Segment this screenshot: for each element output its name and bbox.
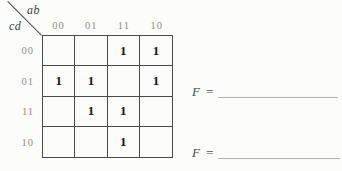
kmap-row-header-11: 11: [8, 97, 34, 128]
kmap-cell-r2c0: [43, 97, 75, 127]
kmap-cell-r3c2: 1: [108, 127, 140, 157]
kmap-row-header-01: 01: [8, 66, 34, 97]
kmap-col-header-11: 11: [108, 19, 141, 32]
kmap-cell-r2c1: 1: [75, 97, 107, 127]
row-variable-label: cd: [9, 20, 21, 32]
kmap-cell-r1c1: 1: [75, 66, 107, 96]
kmap-grid: 1 1 1 1 1 1 1 1: [42, 35, 173, 158]
kmap-col-header-00: 00: [42, 19, 75, 32]
kmap-cell-r0c0: [43, 36, 75, 66]
kmap-col-header-01: 01: [75, 19, 108, 32]
answer-blank-1: [218, 97, 338, 98]
kmap-row-header-10: 10: [8, 127, 34, 158]
kmap-row-headers: 00 01 11 10: [8, 35, 34, 158]
kmap-cell-r0c1: [75, 36, 107, 66]
kmap-exercise-figure: ab cd 00 01 11 10 00 01 11 10 1 1 1 1 1 …: [0, 0, 342, 171]
kmap-cell-r3c0: [43, 127, 75, 157]
kmap-cell-r3c1: [75, 127, 107, 157]
answer-blank-2: [218, 158, 340, 159]
kmap-cell-r2c2: 1: [108, 97, 140, 127]
kmap-cell-r0c3: 1: [140, 36, 172, 66]
kmap-cell-r1c3: 1: [140, 66, 172, 96]
answer-label-2: F =: [192, 146, 215, 159]
kmap-cell-r1c2: [108, 66, 140, 96]
kmap-cell-r3c3: [140, 127, 172, 157]
answer-label-1: F =: [192, 85, 215, 98]
kmap-cell-r0c2: 1: [108, 36, 140, 66]
kmap-cell-r1c0: 1: [43, 66, 75, 96]
column-variable-label: ab: [27, 4, 40, 16]
kmap-col-header-10: 10: [140, 19, 173, 32]
kmap-column-headers: 00 01 11 10: [42, 19, 173, 32]
kmap-cell-r2c3: [140, 97, 172, 127]
kmap-row-header-00: 00: [8, 35, 34, 66]
